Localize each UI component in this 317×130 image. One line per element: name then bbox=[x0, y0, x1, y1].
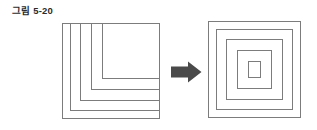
left-outer-square bbox=[62, 23, 160, 119]
bracket-1-horizontal-arm bbox=[70, 110, 160, 111]
arrow-shape bbox=[171, 62, 202, 83]
bracket-2-vertical-arm bbox=[80, 23, 81, 101]
bracket-1-vertical-arm bbox=[70, 23, 71, 111]
bracket-4-horizontal-arm bbox=[102, 78, 160, 79]
figure-caption: 그림 5-20 bbox=[12, 5, 53, 17]
bracket-2-horizontal-arm bbox=[80, 100, 160, 101]
left-diagram-nested-brackets bbox=[62, 23, 160, 119]
transform-arrow-icon bbox=[171, 61, 202, 83]
figure-page: 그림 5-20 bbox=[0, 0, 317, 130]
bracket-3-vertical-arm bbox=[91, 23, 92, 90]
bracket-4-vertical-arm bbox=[102, 23, 103, 79]
right-diagram-concentric-squares bbox=[208, 21, 301, 118]
bracket-3-horizontal-arm bbox=[91, 89, 160, 90]
right-square-5-inner bbox=[248, 61, 261, 78]
